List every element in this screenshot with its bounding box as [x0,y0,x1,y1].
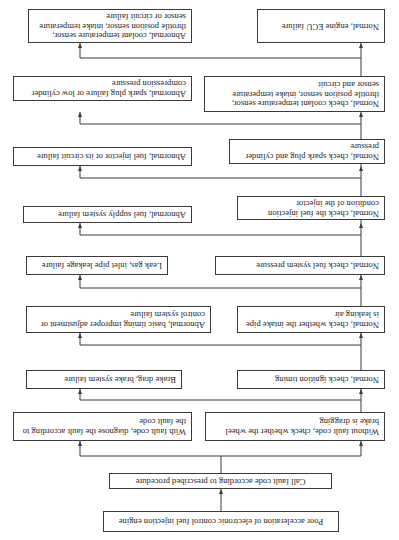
arrowhead [78,223,82,228]
node-check-injection: Normal, check the fuel injection conditi… [237,196,385,220]
arrowhead [359,333,363,338]
arrowhead [359,43,363,48]
arrowhead [359,223,363,228]
node-spark-abnormal: Abnormal, spark plug failure or low cyli… [13,76,192,101]
node-injector-abnormal: Abnormal, fuel injector or its circuit f… [13,147,192,166]
node-root: Poor acceleration of electronic control … [103,511,339,532]
arrowhead [78,112,82,117]
node-with-fault-code: With fault code, diagnose the fault acco… [13,412,192,441]
arrowhead [359,275,363,280]
arrowhead [359,112,363,117]
arrowhead [78,43,82,48]
node-brake-drag: Brake drag, brake system failure [26,370,182,389]
arrowhead [78,166,82,171]
node-timing-abnormal: Abnormal, basic timing improper adjustme… [26,306,211,333]
node-sensors-abnormal: Abnormal, coolant temperature sensor, th… [28,9,192,43]
arrowhead [359,441,363,446]
node-check-ignition-timing: Normal, check ignition timing [237,370,385,389]
arrowhead [78,333,82,338]
arrowhead [78,389,82,394]
node-leak-gas: Leak gas, inlet pipe leakage failure [26,256,168,275]
node-check-intake-leak: Normal, check whether the intake pipe is… [237,306,385,333]
arrowhead [359,166,363,171]
arrowhead [78,441,82,446]
node-check-sensors: Normal, check coolant temperature sensor… [204,76,385,112]
arrowhead [78,275,82,280]
node-fuel-supply-abnormal: Abnormal, fuel supply system failure [23,206,192,223]
node-check-fuel-pressure: Normal, check fuel system pressure [215,256,385,275]
arrowhead [359,389,363,394]
arrowhead [219,489,223,494]
node-without-fault-code: Without fault code, check whether the wh… [205,412,385,441]
node-call-fault-code: Call fault code according to prescribed … [109,473,332,489]
node-ecu-failure: Normal, engine ECU failure [257,9,385,43]
node-check-spark-plug: Normal, check spark plug and cylinder pr… [229,139,385,164]
flowchart-canvas: Poor acceleration of electronic control … [0,0,399,540]
